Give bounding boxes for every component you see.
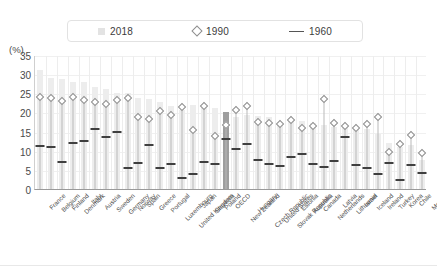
chart-column[interactable] (187, 56, 198, 189)
chart-column[interactable] (253, 56, 264, 189)
marker-stem (225, 121, 226, 189)
chart-column[interactable] (155, 56, 166, 189)
marker-stem (247, 102, 248, 189)
marker-stem (312, 122, 313, 189)
chart-column[interactable] (373, 56, 384, 189)
marker-stem (51, 94, 52, 189)
chart-column[interactable] (46, 56, 57, 189)
chart-column[interactable] (144, 56, 155, 189)
chart-column[interactable] (416, 56, 427, 189)
marker-stem (356, 124, 357, 189)
chart-column[interactable] (362, 56, 373, 189)
chart-column[interactable] (166, 56, 177, 189)
marker-1990-diamond (232, 106, 240, 114)
legend-label-2018: 2018 (110, 26, 133, 37)
marker-stem (258, 118, 259, 189)
chart-column[interactable] (307, 56, 318, 189)
chart-column[interactable] (285, 56, 296, 189)
plot-area (34, 56, 426, 190)
marker-1990-diamond (319, 95, 327, 103)
chart-column[interactable] (340, 56, 351, 189)
chart-column[interactable] (209, 56, 220, 189)
chart-column[interactable] (198, 56, 209, 189)
marker-1960-dash (297, 153, 306, 155)
marker-1960-dash (352, 164, 361, 166)
marker-stem (334, 119, 335, 189)
chart-column[interactable] (57, 56, 68, 189)
y-axis-tick-0: 0 (25, 185, 31, 196)
chart-column[interactable] (405, 56, 416, 189)
marker-stem (301, 124, 302, 189)
marker-1960-dash (36, 145, 45, 147)
chart-column[interactable] (329, 56, 340, 189)
marker-stem (203, 102, 204, 189)
chart-column[interactable] (89, 56, 100, 189)
marker-1960-dash (58, 161, 67, 163)
marker-stem (40, 93, 41, 189)
marker-1960-dash (232, 148, 241, 150)
chart-column[interactable] (177, 56, 188, 189)
marker-1990-diamond (374, 113, 382, 121)
chart-column[interactable] (275, 56, 286, 189)
y-axis-tick-20: 20 (20, 108, 31, 119)
chart-column[interactable] (394, 56, 405, 189)
marker-1990-diamond (417, 149, 425, 157)
chart-column[interactable] (220, 56, 231, 189)
chart-column[interactable] (231, 56, 242, 189)
chart-column[interactable] (242, 56, 253, 189)
marker-1960-dash (373, 173, 382, 175)
marker-1990-diamond (330, 118, 338, 126)
marker-stem (116, 96, 117, 189)
marker-stem (138, 113, 139, 189)
chart-column[interactable] (133, 56, 144, 189)
marker-1960-dash (330, 160, 339, 162)
marker-1960-dash (167, 163, 176, 165)
chart-column[interactable] (296, 56, 307, 189)
diamond-marker-icon (191, 25, 202, 36)
marker-1960-dash (265, 163, 274, 165)
marker-1960-dash (156, 167, 165, 169)
marker-1990-diamond (363, 119, 371, 127)
chart-column[interactable] (100, 56, 111, 189)
y-axis-tick-30: 30 (20, 70, 31, 81)
marker-1960-dash (406, 164, 415, 166)
chart-column[interactable] (68, 56, 79, 189)
marker-stem (377, 113, 378, 189)
marker-1960-dash (112, 131, 121, 133)
marker-stem (323, 95, 324, 189)
chart-column[interactable] (351, 56, 362, 189)
chart-column[interactable] (383, 56, 394, 189)
marker-1960-dash (417, 172, 426, 174)
marker-1960-dash (90, 128, 99, 130)
chart-legend: 2018 1990 1960 (67, 20, 363, 42)
chart-column[interactable] (111, 56, 122, 189)
y-axis-tick-35: 35 (20, 51, 31, 62)
x-axis-label: Hungary (256, 192, 278, 214)
marker-stem (73, 93, 74, 189)
marker-1960-dash (286, 156, 295, 158)
marker-1960-dash (79, 140, 88, 142)
marker-stem (83, 96, 84, 189)
marker-1960-dash (199, 161, 208, 163)
plot-area-wrapper: 35302520151050 FranceBelgiumFinlandDenma… (0, 56, 437, 204)
marker-1960-dash (341, 136, 350, 138)
x-axis-label: Italy (89, 192, 102, 205)
marker-stem (269, 119, 270, 189)
marker-1960-dash (308, 163, 317, 165)
marker-stem (62, 97, 63, 189)
marker-1960-dash (275, 165, 284, 167)
chart-column[interactable] (318, 56, 329, 189)
chart-column[interactable] (122, 56, 133, 189)
marker-stem (367, 120, 368, 189)
line-marker-icon (289, 31, 304, 32)
marker-stem (345, 122, 346, 189)
marker-stem (149, 115, 150, 189)
marker-1960-dash (319, 166, 328, 168)
chart-column[interactable] (79, 56, 90, 189)
legend-label-1960: 1960 (309, 26, 332, 37)
marker-1990-diamond (243, 102, 251, 110)
marker-1960-dash (363, 167, 372, 169)
chart-column[interactable] (264, 56, 275, 189)
marker-1960-dash (145, 144, 154, 146)
chart-column[interactable] (35, 56, 46, 189)
